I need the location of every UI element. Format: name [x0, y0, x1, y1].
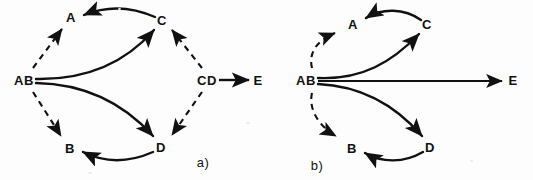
node-b-AB: AB: [296, 74, 316, 87]
edge-b-AB-to-B: [311, 93, 336, 136]
node-b-D: D: [425, 141, 435, 154]
node-b-E: E: [508, 74, 517, 87]
scan-speck: [118, 8, 121, 10]
node-a-D: D: [156, 141, 166, 154]
edge-a-AB-to-C: [36, 30, 154, 79]
scan-speck: [246, 122, 250, 124]
node-a-E: E: [253, 74, 262, 87]
edge-b-AB-to-A: [311, 33, 335, 68]
edge-a-AB-to-D: [36, 83, 153, 136]
node-a-B: B: [65, 142, 75, 155]
precedence-graph-figure: AB A C CD E B D AB A C E B D a) b): [0, 0, 533, 180]
node-a-C: C: [157, 14, 167, 27]
node-a-A: A: [66, 11, 76, 24]
node-a-AB: AB: [14, 74, 34, 87]
edge-b-C-to-A: [366, 11, 421, 20]
node-b-B: B: [347, 142, 357, 155]
edge-a-AB-to-B: [33, 92, 61, 136]
node-a-CD: CD: [197, 74, 217, 87]
edge-a-CD-to-D: [172, 92, 202, 135]
edge-b-AB-to-D: [318, 84, 422, 136]
scan-speck: [88, 172, 92, 174]
edge-a-CD-to-C: [172, 30, 202, 68]
graph-edges-canvas: [0, 0, 533, 180]
edge-a-AB-to-A: [33, 29, 62, 68]
node-b-A: A: [348, 18, 358, 31]
scan-speck: [470, 160, 473, 162]
edge-a-D-to-B: [83, 152, 153, 160]
caption-panel-b: b): [311, 159, 324, 172]
edge-b-AB-to-C: [318, 34, 419, 78]
node-b-C: C: [422, 18, 432, 31]
caption-panel-a: a): [197, 156, 210, 169]
edge-b-D-to-B: [365, 152, 423, 160]
